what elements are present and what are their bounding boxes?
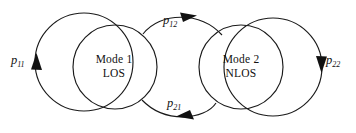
state-label-mode2-line2: NLOS (204, 67, 278, 81)
transition-label-p21: p21 (167, 96, 181, 111)
transition-label-p22: p22 (326, 53, 340, 68)
state-label-mode2-line1: Mode 2 (204, 53, 278, 67)
transition-label-p11-subscript: 11 (17, 60, 24, 69)
transition-label-p21-subscript: 21 (173, 103, 181, 112)
arrowhead-p11-icon (31, 53, 42, 70)
state-label-mode1-line2: LOS (78, 67, 150, 81)
state-label-mode2: Mode 2 NLOS (204, 53, 278, 80)
transition-label-p12: p12 (163, 13, 177, 28)
state-label-mode1: Mode 1 LOS (78, 53, 150, 80)
markov-chain-diagram: Mode 1 LOS Mode 2 NLOS p11 p12 p21 p22 (0, 0, 356, 133)
state-label-mode1-line1: Mode 1 (78, 53, 150, 67)
transition-label-p22-subscript: 22 (332, 60, 340, 69)
transition-label-p11: p11 (11, 53, 24, 68)
arrowhead-p12-icon (180, 13, 197, 23)
transition-label-p12-subscript: 12 (169, 20, 177, 29)
diagram-canvas (0, 0, 356, 133)
